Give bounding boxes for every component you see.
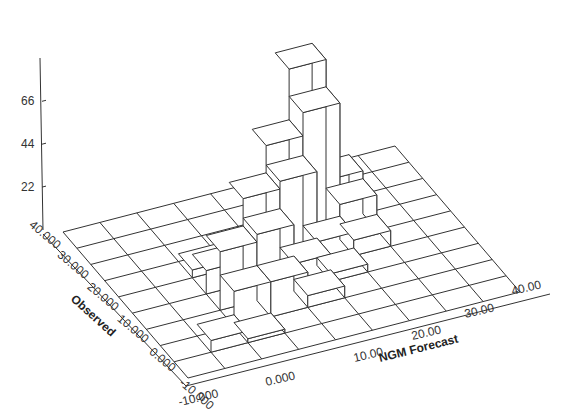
bars [178, 43, 390, 352]
z-tick-label: 22 [21, 180, 35, 194]
y-tick-label: 30.000 [55, 248, 92, 283]
z-axis: 224466 [21, 58, 46, 230]
x-tick-label: 40.00 [510, 278, 543, 298]
x-tick-label: 30.00 [463, 301, 496, 321]
x-tick-label: 0.000 [264, 369, 297, 389]
z-tick-label: 66 [21, 94, 35, 108]
y-tick-label: 40.000 [27, 218, 64, 253]
histogram-3d-chart: 224466 -10.0000.00010.0020.0030.0040.004… [0, 0, 567, 415]
plot-area: 224466 -10.0000.00010.0020.0030.0040.004… [0, 0, 567, 415]
z-tick-label: 44 [21, 137, 35, 151]
